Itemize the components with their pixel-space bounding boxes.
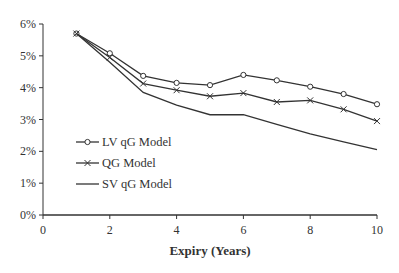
line-chart: 0%1%2%3%4%5%6%0246810 LV qG ModelQG Mode… <box>0 0 399 273</box>
legend-label: QG Model <box>102 156 156 170</box>
y-tick-label: 6% <box>20 17 36 31</box>
y-tick-label: 1% <box>20 176 36 190</box>
y-tick-label: 2% <box>20 144 36 158</box>
x-tick-label: 10 <box>371 223 383 237</box>
circle-marker <box>308 84 313 89</box>
x-tick-label: 6 <box>240 223 246 237</box>
series-qg-model <box>73 31 380 125</box>
x-axis-label: Expiry (Years) <box>169 243 250 258</box>
y-tick-label: 5% <box>20 49 36 63</box>
x-marker <box>374 118 380 124</box>
x-tick-label: 0 <box>40 223 46 237</box>
circle-marker <box>341 91 346 96</box>
series-lines <box>73 31 380 150</box>
axes: 0%1%2%3%4%5%6%0246810 <box>20 17 383 237</box>
circle-marker <box>207 83 212 88</box>
circle-marker <box>174 80 179 85</box>
x-tick-label: 2 <box>107 223 113 237</box>
y-tick-label: 4% <box>20 81 36 95</box>
y-tick-label: 3% <box>20 113 36 127</box>
series-lv-qg-model <box>74 31 380 107</box>
legend-item: QG Model <box>76 156 156 170</box>
x-tick-label: 4 <box>174 223 180 237</box>
legend-item: SV qG Model <box>76 177 172 191</box>
circle-marker <box>274 78 279 83</box>
legend-label: LV qG Model <box>102 135 172 149</box>
circle-marker <box>85 139 90 144</box>
circle-marker <box>141 73 146 78</box>
y-tick-label: 0% <box>20 208 36 222</box>
x-tick-label: 8 <box>307 223 313 237</box>
circle-marker <box>374 102 379 107</box>
legend-label: SV qG Model <box>102 177 172 191</box>
circle-marker <box>241 72 246 77</box>
legend-item: LV qG Model <box>76 135 172 149</box>
legend: LV qG ModelQG ModelSV qG Model <box>76 135 172 191</box>
